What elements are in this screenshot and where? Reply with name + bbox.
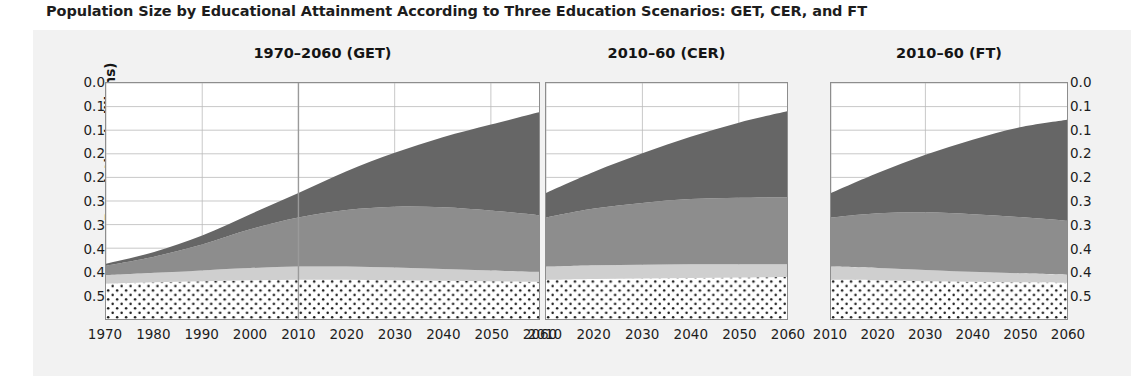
x-tick-label: 2010 (281, 328, 315, 342)
x-tick-label: 2050 (1003, 328, 1037, 342)
y-tick-label-right: 0.0 (1070, 76, 1112, 90)
y-tick-label-left: 0.3 (63, 195, 105, 209)
y-tick-label-right: 0.2 (1070, 147, 1112, 161)
y-tick-label-right: 0.1 (1070, 100, 1112, 114)
plot-area-get (105, 82, 540, 320)
panel-title-get: 1970–2060 (GET) (105, 45, 540, 61)
x-tick-label: 2030 (908, 328, 942, 342)
x-tick-label: 2060 (1051, 328, 1085, 342)
y-tick-label-right: 0.4 (1070, 243, 1112, 257)
panel-cer: 2010–60 (CER) 201020202030204020502060 (545, 30, 788, 376)
x-tick-label: 1980 (136, 328, 170, 342)
figure-title: Population Size by Educational Attainmen… (46, 3, 867, 19)
x-tick-label: 2060 (771, 328, 805, 342)
panel-ft: 2010–60 (FT) 201020202030204020502060 (830, 30, 1068, 376)
plot-area-ft (830, 82, 1068, 320)
y-tick-label-left: 0.2 (63, 147, 105, 161)
panel-title-ft: 2010–60 (FT) (830, 45, 1068, 61)
x-tick-label: 2040 (956, 328, 990, 342)
y-axis-ticks-left: 0.50.40.40.30.30.20.20.10.10.0 (63, 30, 105, 376)
y-tick-label-left: 0.1 (63, 100, 105, 114)
area-band-no-education (546, 277, 787, 319)
y-tick-label-right: 0.3 (1070, 219, 1112, 233)
x-tick-label: 2020 (329, 328, 363, 342)
y-tick-label-left: 0.2 (63, 171, 105, 185)
x-tick-label: 1970 (88, 328, 122, 342)
x-tick-label: 2050 (722, 328, 756, 342)
x-axis-ticks-get: 1970198019902000201020202030204020502060 (105, 322, 540, 352)
x-tick-label: 2000 (233, 328, 267, 342)
y-tick-label-left: 0.5 (63, 290, 105, 304)
y-tick-label-right: 0.5 (1070, 290, 1112, 304)
y-axis-ticks-right: 0.50.40.40.30.30.20.20.10.10.0 (1070, 30, 1112, 376)
y-tick-label-left: 0.1 (63, 124, 105, 138)
chart-figure: Population Size by Educational Attainmen… (0, 0, 1142, 384)
y-tick-label-right: 0.3 (1070, 195, 1112, 209)
x-tick-label: 2010 (528, 328, 562, 342)
x-tick-label: 2020 (576, 328, 610, 342)
x-tick-label: 2030 (625, 328, 659, 342)
panel-title-cer: 2010–60 (CER) (545, 45, 788, 61)
plot-area-cer (545, 82, 788, 320)
y-tick-label-left: 0.4 (63, 243, 105, 257)
area-band-no-education (106, 280, 539, 319)
area-band-tertiary (831, 120, 1067, 221)
y-tick-label-right: 0.2 (1070, 171, 1112, 185)
y-tick-label-left: 0.0 (63, 76, 105, 90)
x-tick-label: 2050 (474, 328, 508, 342)
x-tick-label: 2040 (426, 328, 460, 342)
x-tick-label: 2010 (813, 328, 847, 342)
area-band-secondary (106, 206, 539, 275)
x-tick-label: 1990 (184, 328, 218, 342)
y-tick-label-right: 0.4 (1070, 266, 1112, 280)
area-band-no-education (831, 280, 1067, 319)
x-tick-label: 2040 (674, 328, 708, 342)
figure-body: Population (millions) 0.50.40.40.30.30.2… (33, 30, 1131, 376)
y-tick-label-left: 0.4 (63, 266, 105, 280)
area-band-secondary (831, 212, 1067, 274)
y-tick-label-right: 0.1 (1070, 124, 1112, 138)
x-axis-ticks-ft: 201020202030204020502060 (830, 322, 1068, 352)
panel-get: 1970–2060 (GET) 197019801990200020102020… (105, 30, 540, 376)
y-tick-label-left: 0.3 (63, 219, 105, 233)
x-tick-label: 2020 (860, 328, 894, 342)
x-axis-ticks-cer: 201020202030204020502060 (545, 322, 788, 352)
x-tick-label: 2030 (378, 328, 412, 342)
